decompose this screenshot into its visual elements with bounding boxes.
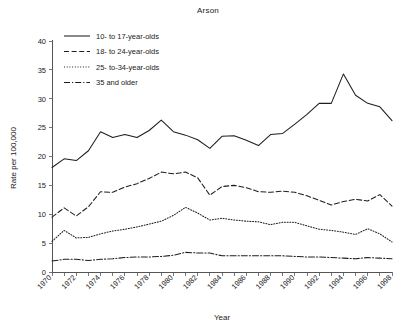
series-line-2	[52, 172, 392, 217]
y-tick-label: 20	[38, 152, 46, 161]
series-line-3	[52, 207, 392, 242]
x-axis-title: Year	[214, 313, 231, 322]
y-axis-title: Rate per 100,000	[9, 127, 18, 189]
chart-figure: Arson 0510152025303540 19701972197419761…	[0, 0, 416, 331]
series-line-4	[52, 252, 392, 261]
x-tick-label: 1988	[254, 273, 272, 291]
x-tick-label: 1980	[157, 273, 175, 291]
y-tick-label: 10	[38, 210, 46, 219]
y-tick-label: 30	[38, 95, 46, 104]
y-tick-label: 5	[42, 239, 46, 248]
x-tick-label: 1994	[327, 273, 345, 291]
y-axis-ticks: 0510152025303540	[38, 37, 52, 277]
y-tick-label: 40	[38, 37, 46, 46]
x-tick-label: 1978	[132, 273, 150, 291]
series-line-1	[52, 74, 392, 168]
legend-label-2: 18- to 24-year-olds	[96, 47, 159, 56]
x-tick-label: 1998	[375, 273, 393, 291]
x-tick-label: 1972	[60, 273, 78, 291]
legend-label-4: 35 and older	[96, 78, 138, 87]
chart-legend: 10- to 17-year-olds18- to 24-year-olds25…	[64, 32, 160, 88]
x-tick-label: 1992	[302, 273, 320, 291]
y-tick-label: 35	[38, 66, 46, 75]
x-tick-label: 1970	[35, 273, 53, 291]
data-series-group	[52, 74, 392, 261]
legend-label-3: 25- to-34-year-olds	[96, 63, 160, 72]
y-tick-label: 15	[38, 181, 46, 190]
x-tick-label: 1974	[84, 273, 102, 291]
x-tick-label: 1996	[351, 273, 369, 291]
legend-label-1: 10- to 17-year-olds	[96, 32, 159, 41]
x-tick-label: 1984	[205, 273, 223, 291]
x-tick-label: 1986	[230, 273, 248, 291]
x-tick-label: 1976	[108, 273, 126, 291]
x-tick-label: 1990	[278, 273, 296, 291]
y-tick-label: 25	[38, 123, 46, 132]
x-axis-ticks: 1970197219741976197819801982198419861988…	[35, 272, 393, 291]
x-tick-label: 1982	[181, 273, 199, 291]
plot-area: 0510152025303540 19701972197419761978198…	[0, 0, 416, 331]
